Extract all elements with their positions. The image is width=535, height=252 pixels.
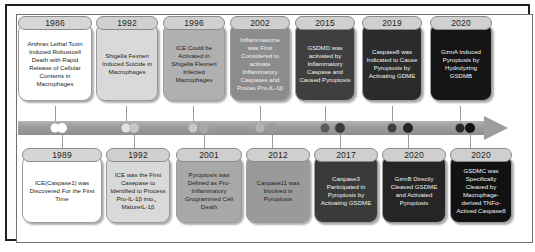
card-year-label: 2020 bbox=[430, 16, 492, 30]
axis-dot-top-1996 bbox=[189, 124, 198, 133]
card-description: ICE was the First Casepase to Identified… bbox=[106, 155, 170, 223]
card-description: Caspase11 was Involved in Pyroptosis bbox=[246, 155, 310, 223]
timeline-card-bottom-2012: 2012Caspase11 was Involved in Pyroptosis bbox=[246, 148, 310, 223]
connector-line-top-2019 bbox=[392, 106, 393, 121]
card-year-label: 2020 bbox=[450, 148, 512, 162]
timeline-card-bottom-2017: 2017Canpase3 Participated in Pyroptosis … bbox=[314, 148, 378, 223]
card-description: Canpase3 Participated in Pyroptosis by A… bbox=[314, 155, 378, 223]
timeline-card-top-1992: 1992Shigella Fexneri Induced Suicide in … bbox=[96, 16, 158, 101]
card-description-text: ICE was the First Casepase to Identified… bbox=[110, 171, 166, 211]
axis-dot-bottom-2020 bbox=[403, 123, 413, 133]
card-year-label: 2012 bbox=[246, 148, 310, 162]
timeline-card-top-2019: 2019Caspase8 was Indicated to Cause Pyro… bbox=[362, 16, 422, 101]
timeline-figure: 1986Anthrax Lethal Toxin Induced Robustc… bbox=[0, 0, 535, 252]
axis-dot-bottom-2001 bbox=[199, 123, 209, 133]
card-year-label: 2017 bbox=[314, 148, 378, 162]
card-description: ICE(Caspase1) was Discovered For the Fir… bbox=[22, 155, 102, 223]
card-year-label: 1996 bbox=[163, 16, 225, 30]
card-year-label: 2001 bbox=[176, 148, 242, 162]
timeline-card-bottom-1992: 1992ICE was the First Casepase to Identi… bbox=[106, 148, 170, 223]
card-description-text: GzmB Directly Cleaved GSDME and Activate… bbox=[386, 175, 442, 207]
card-year-label: 2019 bbox=[362, 16, 422, 30]
card-description: Pyroptosis was Defined as Pro-Inflammato… bbox=[176, 155, 242, 223]
card-description-text: Pyroptosis was Defined as Pro-Inflammato… bbox=[180, 171, 238, 211]
card-description-text: ICE Could be Activated in Shigella Flexn… bbox=[167, 44, 221, 84]
timeline-card-top-2020: 2020GzmA Induced Pyroptosis by Hydrolyzi… bbox=[430, 16, 492, 101]
card-description-text: GzmA Induced Pyroptosis by Hydrolyzing G… bbox=[434, 48, 488, 80]
timeline-card-bottom-2020: 2020GSDMC was Specifically Cleaved by Ma… bbox=[450, 148, 512, 223]
card-description-text: Canpase3 Participated in Pyroptosis by A… bbox=[318, 175, 374, 207]
card-description: GSDMD was activated by Inflammatory Casp… bbox=[295, 23, 355, 101]
axis-dot-top-2002 bbox=[256, 124, 265, 133]
card-year-label: 1992 bbox=[96, 16, 158, 30]
card-description: Shigella Fexneri Induced Suicide in Macr… bbox=[96, 23, 158, 101]
card-year-label: 1989 bbox=[22, 148, 102, 162]
connector-line-top-2015 bbox=[325, 106, 326, 121]
axis-dot-top-2019 bbox=[388, 124, 397, 133]
timeline-card-bottom-1989: 1989ICE(Caspase1) was Discovered For the… bbox=[22, 148, 102, 223]
card-description-text: Shigella Fexneri Induced Suicide in Macr… bbox=[100, 52, 154, 76]
card-description-text: Caspase8 was Indicated to Cause Pyroptos… bbox=[366, 48, 418, 80]
axis-dot-bottom-2012 bbox=[267, 123, 277, 133]
connector-line-top-1992 bbox=[126, 106, 127, 121]
card-description: Caspase8 was Indicated to Cause Pyroptos… bbox=[362, 23, 422, 101]
card-description-text: GSDMD was activated by Inflammatory Casp… bbox=[299, 44, 351, 84]
card-description: GzmA Induced Pyroptosis by Hydrolyzing G… bbox=[430, 23, 492, 101]
timeline-card-bottom-2020: 2020GzmB Directly Cleaved GSDME and Acti… bbox=[382, 148, 446, 223]
timeline-card-top-1986: 1986Anthrax Lethal Toxin Induced Robustc… bbox=[18, 16, 92, 101]
card-description-text: Caspase11 was Involved in Pyroptosis bbox=[250, 179, 306, 203]
card-description: GSDMC was Specifically Cleaved by Macrop… bbox=[450, 155, 512, 223]
card-description-text: GSDMC was Specifically Cleaved by Macrop… bbox=[454, 167, 508, 215]
axis-dot-bottom-2017 bbox=[335, 123, 345, 133]
card-year-label: 2020 bbox=[382, 148, 446, 162]
axis-dot-bottom-1989 bbox=[57, 123, 67, 133]
card-description: ICE Could be Activated in Shigella Flexn… bbox=[163, 23, 225, 101]
timeline-axis bbox=[18, 120, 510, 136]
connector-line-top-1986 bbox=[55, 106, 56, 121]
connector-line-top-2020 bbox=[460, 106, 461, 121]
axis-dot-top-2020 bbox=[456, 124, 465, 133]
axis-dot-bottom-1992 bbox=[129, 123, 139, 133]
timeline-bar bbox=[18, 121, 488, 135]
timeline-card-bottom-2001: 2001Pyroptosis was Defined as Pro-Inflam… bbox=[176, 148, 242, 223]
card-year-label: 2002 bbox=[230, 16, 290, 30]
timeline-arrowhead bbox=[484, 116, 508, 140]
timeline-card-top-1996: 1996ICE Could be Activated in Shigella F… bbox=[163, 16, 225, 101]
connector-line-top-1996 bbox=[193, 106, 194, 121]
axis-dot-top-2015 bbox=[321, 124, 330, 133]
axis-dot-bottom-2020 bbox=[465, 123, 475, 133]
card-description: GzmB Directly Cleaved GSDME and Activate… bbox=[382, 155, 446, 223]
card-year-label: 1986 bbox=[18, 16, 92, 30]
card-description-text: ICE(Caspase1) was Discovered For the Fir… bbox=[26, 179, 98, 203]
card-year-label: 1992 bbox=[106, 148, 170, 162]
timeline-card-top-2015: 2015GSDMD was activated by Inflammatory … bbox=[295, 16, 355, 101]
card-description: Inflammasome was First Considered to act… bbox=[230, 23, 290, 101]
card-description-text: Anthrax Lethal Toxin Induced Robustcell … bbox=[22, 40, 88, 88]
card-description-text: Inflammasome was First Considered to act… bbox=[234, 36, 286, 91]
card-year-label: 2015 bbox=[295, 16, 355, 30]
connector-line-top-2002 bbox=[260, 106, 261, 121]
timeline-card-top-2002: 2002Inflammasome was First Considered to… bbox=[230, 16, 290, 101]
card-description: Anthrax Lethal Toxin Induced Robustcell … bbox=[18, 23, 92, 101]
